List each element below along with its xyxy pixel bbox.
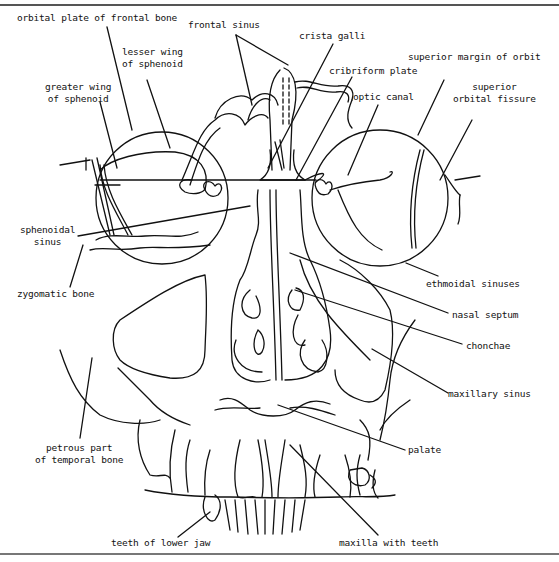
label-petrous-part: petrous part of temporal bone — [35, 442, 123, 466]
label-sup-orbital-fissure-line1: superior — [453, 81, 536, 93]
leader-petrous — [80, 358, 92, 438]
label-maxilla-with-teeth: maxilla with teeth — [339, 537, 438, 549]
label-superior-margin: superior margin of orbit — [408, 51, 540, 63]
label-cribriform-plate: cribriform plate — [329, 65, 417, 77]
label-chonchae: chonchae — [466, 340, 510, 352]
leader-sup-orbital-fissure — [440, 120, 472, 180]
label-greater-wing-line1: greater wing — [45, 81, 111, 93]
label-palate: palate — [408, 444, 441, 456]
leader-ethmoidal — [406, 263, 438, 276]
label-lesser-wing-line2: of sphenoid — [122, 58, 183, 70]
leader-teeth-lower — [178, 512, 210, 537]
leader-chonchae — [295, 290, 462, 344]
leader-lesser-wing — [147, 80, 170, 148]
leader-maxillary-sinus — [372, 349, 448, 393]
leader-nasal-septum — [290, 253, 448, 313]
label-lesser-wing-line1: lesser wing — [122, 46, 183, 58]
label-nasal-septum: nasal septum — [452, 309, 518, 321]
label-ethmoidal-sinuses: ethmoidal sinuses — [426, 278, 520, 290]
leader-crista-galli — [268, 44, 333, 168]
label-crista-galli: crista galli — [299, 30, 365, 42]
label-greater-wing-line2: of sphenoid — [45, 93, 111, 105]
label-greater-wing: greater wing of sphenoid — [45, 81, 111, 105]
leader-optic-canal — [348, 105, 378, 175]
label-lesser-wing: lesser wing of sphenoid — [122, 46, 183, 70]
label-sup-orbital-fissure-line2: orbital fissure — [453, 93, 536, 105]
diagram-frame: orbital plate of frontal bone frontal si… — [0, 0, 559, 562]
label-orbital-plate: orbital plate of frontal bone — [17, 12, 177, 24]
label-sphenoidal-sinus-line2: sinus — [20, 236, 75, 248]
leader-frontal-sinus-b — [236, 35, 252, 105]
leader-cribriform — [296, 77, 352, 180]
label-teeth-lower-jaw: teeth of lower jaw — [111, 537, 210, 549]
leader-frontal-sinus-a — [236, 35, 288, 65]
label-petrous-part-line1: petrous part — [35, 442, 123, 454]
label-frontal-sinus: frontal sinus — [188, 19, 260, 31]
label-sphenoidal-sinus-line1: sphenoidal — [20, 224, 75, 236]
label-sup-orbital-fissure: superior orbital fissure — [453, 81, 536, 105]
leader-greater-wing — [100, 102, 117, 168]
label-optic-canal: optic canal — [353, 91, 414, 103]
label-maxillary-sinus: maxillary sinus — [448, 388, 531, 400]
leader-zygomatic — [70, 245, 83, 287]
right-orbit — [312, 130, 448, 266]
leader-orbital-plate — [107, 27, 132, 130]
leader-maxilla-teeth — [290, 445, 378, 535]
label-sphenoidal-sinus: sphenoidal sinus — [20, 224, 75, 248]
label-petrous-part-line2: of temporal bone — [35, 454, 123, 466]
label-zygomatic-bone: zygomatic bone — [17, 288, 94, 300]
leader-superior-margin — [418, 80, 444, 135]
